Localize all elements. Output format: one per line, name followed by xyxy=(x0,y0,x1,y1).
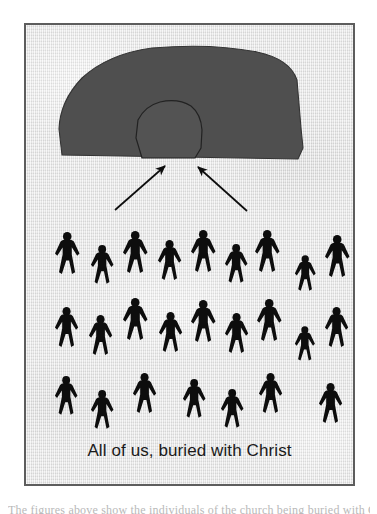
person-figure xyxy=(259,373,282,413)
person-body xyxy=(159,319,182,352)
person-figure xyxy=(295,255,316,291)
crowd-of-people xyxy=(55,230,350,429)
person-body xyxy=(191,307,216,342)
person-body xyxy=(257,306,282,341)
person-figure xyxy=(183,379,206,418)
person-body xyxy=(225,320,248,353)
person-body xyxy=(89,322,112,355)
person-figure xyxy=(295,326,315,360)
person-figure xyxy=(325,307,348,347)
person-body xyxy=(55,314,78,347)
arrow-left xyxy=(115,166,165,210)
person-body xyxy=(183,386,206,418)
person-figure xyxy=(191,230,216,272)
person-figure xyxy=(221,389,244,428)
person-body xyxy=(255,237,280,272)
person-body xyxy=(55,239,80,274)
person-body xyxy=(295,332,315,360)
person-body xyxy=(259,380,282,413)
person-figure xyxy=(319,383,342,423)
person-figure xyxy=(55,232,80,274)
page-bottom-clipped-text: The figures above show the individuals o… xyxy=(8,503,370,514)
person-figure xyxy=(255,230,280,272)
person-figure xyxy=(257,299,282,341)
scene-illustration xyxy=(26,25,353,484)
arrow-group xyxy=(115,166,247,211)
person-body xyxy=(325,242,350,277)
person-body xyxy=(91,252,114,284)
person-figure xyxy=(123,231,148,273)
person-body xyxy=(225,251,248,283)
person-body xyxy=(133,380,156,413)
person-figure xyxy=(191,300,216,342)
person-body xyxy=(91,397,114,429)
person-figure xyxy=(89,315,112,355)
caption-text: All of us, buried with Christ xyxy=(26,441,353,461)
person-figure xyxy=(225,313,248,353)
tomb-rock xyxy=(59,46,303,159)
illustration-frame: All of us, buried with Christ xyxy=(24,23,355,486)
person-figure xyxy=(91,245,114,284)
person-body xyxy=(325,314,348,347)
person-body xyxy=(295,261,316,290)
person-figure xyxy=(133,373,156,413)
person-body xyxy=(55,383,78,415)
person-body xyxy=(319,390,342,423)
person-figure xyxy=(159,312,182,352)
tomb-opening-shape xyxy=(136,101,202,158)
person-figure xyxy=(123,298,148,340)
person-figure xyxy=(91,390,114,429)
person-figure xyxy=(55,376,78,415)
person-figure xyxy=(55,307,78,347)
person-body xyxy=(123,238,148,273)
person-figure xyxy=(225,244,248,283)
person-body xyxy=(123,305,148,340)
illustration-page: All of us, buried with Christ The figure… xyxy=(0,0,377,514)
person-figure xyxy=(158,240,181,280)
arrow-right xyxy=(198,167,247,211)
person-body xyxy=(158,247,181,280)
person-figure xyxy=(325,235,350,277)
person-body xyxy=(221,396,244,428)
person-body xyxy=(191,237,216,272)
